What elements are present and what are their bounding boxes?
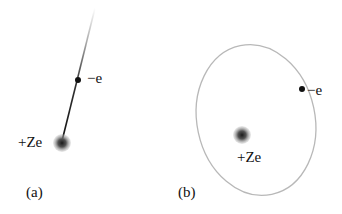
nucleus-a <box>53 134 71 152</box>
electron-b <box>299 86 305 92</box>
nucleus-label-b: +Ze <box>237 150 261 165</box>
orbit-ellipse <box>182 33 329 206</box>
diagram-canvas <box>0 0 342 214</box>
nucleus-label-a: +Ze <box>18 135 42 150</box>
caption-b: (b) <box>178 185 196 200</box>
caption-a: (a) <box>26 185 43 200</box>
nucleus-b <box>233 126 251 144</box>
electron-a <box>75 77 81 83</box>
panel-b <box>182 33 329 206</box>
electron-label-a: −e <box>87 71 102 86</box>
electron-label-b: −e <box>307 83 322 98</box>
